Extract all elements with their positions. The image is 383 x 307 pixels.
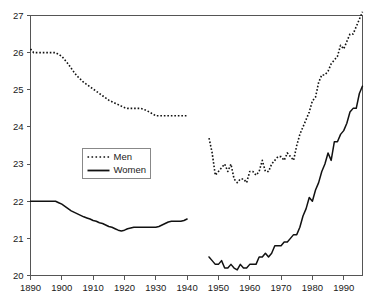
y-tick-label: 23	[13, 158, 24, 169]
chart-legend: MenWomen	[83, 149, 151, 179]
x-tick-label: 1930	[145, 282, 166, 293]
y-tick-label: 21	[13, 233, 24, 244]
series-line-women	[209, 86, 362, 270]
x-tick-label: 1980	[302, 282, 323, 293]
y-tick-label: 22	[13, 196, 24, 207]
axis-frame	[31, 16, 363, 276]
x-tick-label: 1910	[83, 282, 104, 293]
plot-frame	[31, 16, 363, 276]
y-tick-label: 24	[13, 121, 24, 132]
x-tick-label: 1890	[20, 282, 41, 293]
chart-container: 2021222324252627 18901900191019201930194…	[0, 0, 383, 307]
line-chart: 2021222324252627 18901900191019201930194…	[0, 0, 383, 307]
legend-label-men: Men	[114, 151, 132, 162]
x-tick-label: 1960	[239, 282, 260, 293]
y-tick-label: 20	[13, 270, 24, 281]
series-line-men	[31, 49, 188, 116]
y-tick-label: 25	[13, 84, 24, 95]
x-tick-label: 1900	[51, 282, 72, 293]
series-line-women	[31, 201, 188, 231]
x-tick-label: 1950	[208, 282, 229, 293]
y-tick-label: 26	[13, 47, 24, 58]
series-line-men	[209, 12, 362, 183]
x-tick-label: 1920	[114, 282, 135, 293]
x-tick-label: 1990	[333, 282, 354, 293]
x-tick-label: 1940	[177, 282, 198, 293]
y-tick-label: 27	[13, 10, 24, 21]
x-axis-ticks: 1890190019101920193019401950196019701980…	[20, 276, 354, 293]
x-tick-label: 1970	[270, 282, 291, 293]
legend-label-women: Women	[114, 164, 147, 175]
series-group	[31, 12, 363, 270]
y-axis-ticks: 2021222324252627	[13, 10, 31, 281]
